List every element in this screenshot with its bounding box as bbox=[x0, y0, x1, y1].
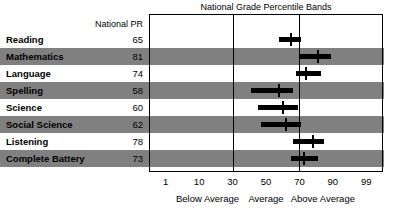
x-axis-zone-label: Average bbox=[248, 192, 283, 205]
percentile-band-bar bbox=[299, 54, 331, 59]
percentile-band-bar bbox=[258, 105, 298, 110]
percentile-band-bar bbox=[251, 88, 293, 93]
percentile-marker-tick bbox=[305, 67, 307, 80]
percentile-marker-tick bbox=[285, 118, 287, 131]
x-axis-zone-label: Below Average bbox=[176, 192, 239, 205]
percentile-band-bar bbox=[261, 122, 301, 127]
x-axis-tick-label: 30 bbox=[227, 176, 238, 188]
x-axis-tick-label: 1 bbox=[163, 176, 168, 188]
percentile-marker-tick bbox=[290, 33, 292, 46]
x-axis-zone-label: Above Average bbox=[291, 192, 355, 205]
percentile-marker-tick bbox=[303, 152, 305, 165]
x-axis-tick-label: 90 bbox=[328, 176, 339, 188]
x-axis-tick-label: 10 bbox=[194, 176, 205, 188]
percentile-band-bar bbox=[296, 71, 321, 76]
percentile-band-bar bbox=[293, 139, 325, 144]
chart-title: National Grade Percentile Bands bbox=[149, 1, 383, 13]
percentile-marker-tick bbox=[278, 84, 280, 97]
national-pr-column-header: National PR bbox=[55, 19, 143, 30]
percentile-marker-tick bbox=[317, 50, 319, 63]
percentile-marker-tick bbox=[282, 101, 284, 114]
band-layer bbox=[0, 31, 405, 167]
percentile-marker-tick bbox=[312, 135, 314, 148]
x-axis-tick-label: 99 bbox=[361, 176, 372, 188]
x-axis-zone-labels: Below AverageAverageAbove Average bbox=[0, 192, 405, 206]
percentile-band-chart: National Grade Percentile Bands National… bbox=[0, 0, 405, 220]
x-axis-tick-label: 50 bbox=[261, 176, 272, 188]
x-axis-tick-labels: 1103050709099 bbox=[0, 176, 405, 189]
x-axis-tick-label: 70 bbox=[294, 176, 305, 188]
